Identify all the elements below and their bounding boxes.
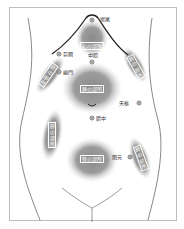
torso-left-outline [20,18,40,220]
label-kangen: 関元 [112,155,122,160]
label-juketsu: 巨闕 [63,52,73,57]
label-yumon: 幽門 [63,70,73,75]
zone-label-spleen: 脾の部所 [80,85,104,93]
label-sessei: 臍中 [96,116,106,121]
zone-label-left-lower: 肝の部所 [48,122,56,148]
label-chukan: 中脘 [88,53,98,58]
torso-right-outline [148,18,161,220]
zone-label-heart: 心の部所 [80,42,104,50]
pelvis-line [62,188,122,208]
zone-label-kidney: 腎の部所 [80,155,104,163]
abdomen-diagram [0,0,184,229]
label-top: 鳩尾 [100,17,110,22]
label-tensu: 天枢 [119,101,129,106]
